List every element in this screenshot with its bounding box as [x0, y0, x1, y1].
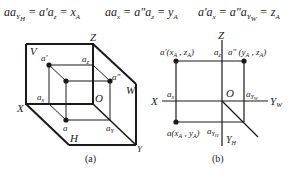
- point-a-prime: [173, 58, 178, 63]
- label-ay: aY: [106, 123, 115, 134]
- label-h: H: [69, 132, 79, 144]
- label-x: X: [16, 102, 25, 114]
- label-a-prime-coords: a'(xA , zA): [160, 47, 194, 58]
- label-az: az: [82, 54, 90, 65]
- diagonal-45-line: [222, 101, 258, 137]
- diagram-canvas: Z V a' az a" W ax O X a aY H Y (a) Z a'(…: [0, 0, 293, 180]
- label-x: X: [150, 95, 159, 107]
- point-a-dprime: [241, 58, 246, 63]
- label-z: Z: [218, 29, 225, 41]
- label-a-dprime-coords: a" (yA , zA): [228, 47, 266, 58]
- label-yw: YW: [270, 95, 283, 109]
- label-ax: ax: [37, 92, 45, 103]
- proj-aprime-A: [49, 65, 66, 81]
- label-a: a: [63, 123, 68, 133]
- proj-ax-a: [49, 104, 66, 120]
- label-a-prime: a': [41, 53, 49, 63]
- point-a: [63, 117, 68, 122]
- label-o: O: [95, 92, 103, 104]
- label-a-coords: a(xA , yA): [167, 128, 200, 139]
- label-yh: YH: [226, 134, 237, 146]
- label-ax: ax: [167, 89, 175, 100]
- caption-b: (b): [212, 153, 224, 165]
- label-z: Z: [90, 31, 97, 43]
- caption-a: (a): [85, 153, 96, 165]
- label-y: Y: [137, 144, 143, 154]
- label-ayh: aYH: [207, 126, 219, 138]
- label-a-dprime: a": [112, 72, 121, 82]
- point-A: [63, 78, 68, 83]
- point-a-prime: [46, 62, 51, 67]
- oy-axis: [93, 104, 136, 145]
- label-v: V: [30, 45, 38, 57]
- point-a: [173, 119, 178, 124]
- label-az: az: [214, 47, 222, 58]
- figure-b-labels: Z a'(xA , zA) az a" (yA , zA) ax O aYW X…: [150, 29, 283, 165]
- label-o: O: [226, 87, 234, 99]
- label-w: W: [126, 84, 136, 96]
- proj-az-adprime: [93, 65, 110, 81]
- label-ayw: aYW: [246, 89, 259, 101]
